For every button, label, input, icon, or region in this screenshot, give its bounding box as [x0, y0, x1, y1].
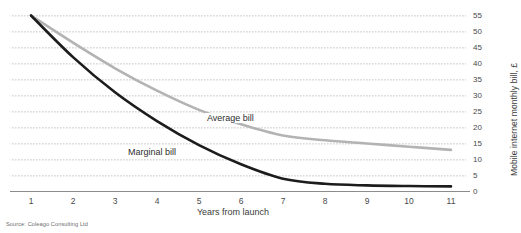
y-tick-25: 25	[473, 107, 495, 116]
y-tick-0: 0	[473, 187, 495, 196]
x-tick-7: 7	[271, 197, 295, 206]
y-tick-5: 5	[473, 171, 495, 180]
y-tick-55: 55	[473, 11, 495, 20]
x-tick-1: 1	[19, 197, 43, 206]
series-label-marginal: Marginal bill	[126, 147, 178, 157]
x-tick-8: 8	[313, 197, 337, 206]
y-tick-20: 20	[473, 123, 495, 132]
y-tick-10: 10	[473, 155, 495, 164]
y-tick-35: 35	[473, 75, 495, 84]
y-tick-50: 50	[473, 27, 495, 36]
series-label-average: Average bill	[205, 113, 256, 123]
series-line-average	[31, 16, 451, 150]
y-tick-30: 30	[473, 91, 495, 100]
line-chart: 55 50 45 40 35 30 25 20 15 10 5 0 1 2 3 …	[0, 0, 521, 233]
y-tick-40: 40	[473, 59, 495, 68]
x-tick-6: 6	[229, 197, 253, 206]
x-tick-2: 2	[61, 197, 85, 206]
x-axis-title: Years from launch	[0, 207, 466, 217]
y-tick-45: 45	[473, 43, 495, 52]
x-tick-3: 3	[103, 197, 127, 206]
x-tick-10: 10	[397, 197, 421, 206]
source-note: Source: Coleago Consulting Ltd	[6, 221, 88, 227]
y-tick-15: 15	[473, 139, 495, 148]
y-axis-title: Mobile internet monthly bill, £	[509, 63, 519, 176]
x-tick-4: 4	[145, 197, 169, 206]
x-tick-5: 5	[187, 197, 211, 206]
series-line-marginal	[31, 16, 451, 187]
x-tick-9: 9	[355, 197, 379, 206]
gridlines	[10, 16, 466, 177]
x-tick-11: 11	[439, 197, 463, 206]
